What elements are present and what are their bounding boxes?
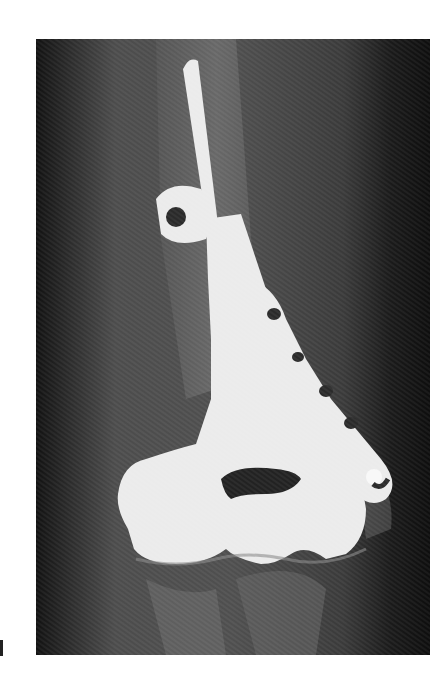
xray-frame <box>36 39 430 655</box>
film-grain <box>36 39 430 655</box>
edge-mark <box>0 640 3 656</box>
xray-image <box>36 39 430 655</box>
